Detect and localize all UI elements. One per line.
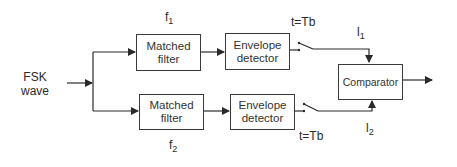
upper-sampling-label: t=Tb (291, 15, 315, 29)
upper-frequency-label: f1 (165, 10, 173, 26)
lower-output-label: l2 (366, 121, 374, 137)
lower-sampling-label: t=Tb (299, 129, 323, 143)
lower-envelope-detector-box: Envelopedetector (230, 94, 295, 130)
upper-to-comparator (313, 49, 369, 62)
upper-envelope-detector-box: Envelopedetector (225, 33, 290, 70)
upper-matched-filter-box: Matchedfilter (136, 34, 201, 71)
lower-to-comparator (318, 101, 372, 111)
comparator-box: Comparator (338, 64, 403, 100)
upper-output-label: l1 (357, 25, 365, 41)
lower-frequency-label: f2 (169, 138, 177, 154)
upper-switch-blade (299, 43, 313, 49)
lower-switch-blade (304, 104, 318, 111)
input-label: FSK wave (21, 70, 49, 98)
lower-matched-filter-box: Matchedfilter (139, 94, 204, 130)
